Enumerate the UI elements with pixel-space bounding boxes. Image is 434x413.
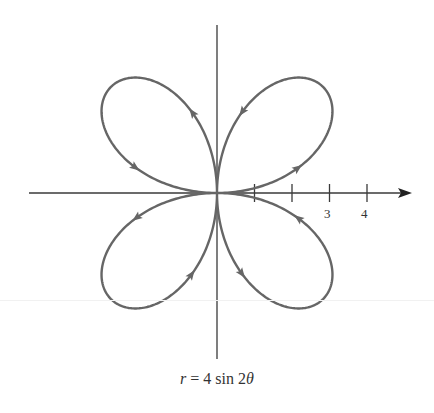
caption-theta: θ xyxy=(246,370,254,387)
faint-divider xyxy=(0,300,434,301)
tick-label-3: 3 xyxy=(324,206,331,222)
polar-rose-plot xyxy=(0,0,434,413)
equation-caption: r = 4 sin 2θ xyxy=(0,370,434,388)
caption-expression: = 4 sin 2 xyxy=(186,370,246,387)
tick-label-4: 4 xyxy=(361,206,368,222)
